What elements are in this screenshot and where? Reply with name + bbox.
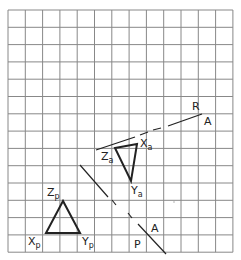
label-xp: Xp	[28, 235, 41, 250]
label-a-upper: A	[204, 115, 212, 128]
grid	[8, 10, 233, 252]
label-xa: Xa	[140, 137, 153, 152]
triangle-p	[46, 201, 80, 233]
label-r: R	[192, 100, 200, 113]
diagram-canvas: Za Xa Ya Zp Xp Yp R A A P	[0, 0, 241, 260]
label-yp: Yp	[81, 235, 94, 250]
triangle-a	[115, 144, 137, 181]
label-zp: Zp	[47, 186, 60, 201]
label-a-lower: A	[151, 222, 159, 235]
line-segment	[153, 128, 161, 130]
label-p: P	[134, 238, 141, 251]
stray-mark	[173, 201, 174, 202]
line-segment	[168, 114, 202, 126]
label-ya: Ya	[130, 184, 143, 199]
